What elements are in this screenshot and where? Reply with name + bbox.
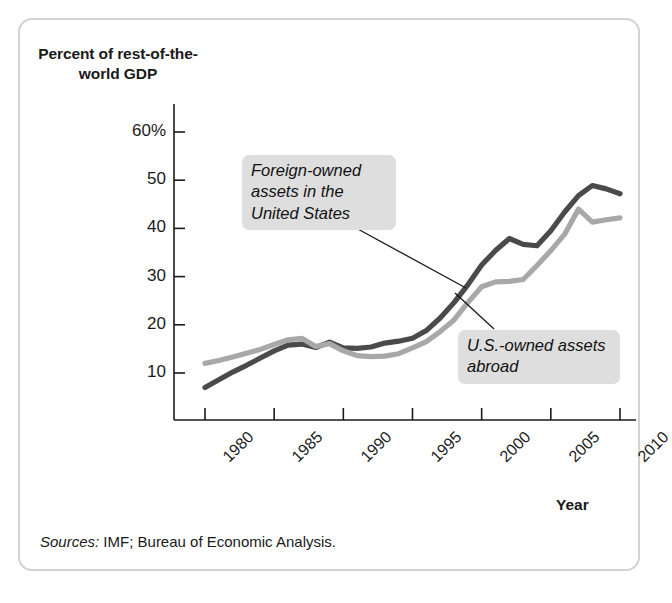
source-note: Sources: IMF; Bureau of Economic Analysi…	[40, 533, 336, 550]
y-tick-label: 50	[112, 169, 166, 189]
y-tick-label: 10	[112, 362, 166, 382]
leader-foreign	[345, 222, 466, 288]
y-tick-label: 30	[112, 266, 166, 286]
y-tick-label: 20	[112, 314, 166, 334]
y-tick-label: 40	[112, 217, 166, 237]
source-text: IMF; Bureau of Economic Analysis.	[99, 533, 336, 550]
callout-foreign-owned: Foreign-owned assets in the United State…	[242, 155, 396, 230]
y-tick-label: 60%	[112, 121, 166, 141]
source-label: Sources:	[40, 533, 99, 550]
callout-us-owned: U.S.-owned assets abroad	[458, 330, 620, 384]
